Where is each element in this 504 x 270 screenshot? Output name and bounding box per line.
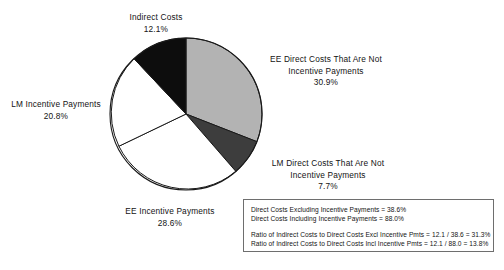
pie-label-lm-direct-costs-value: 7.7% (258, 181, 398, 193)
annotation-line-ratio-incl: Ratio of Indirect Costs to Direct Costs … (251, 239, 487, 248)
pie-label-ee-incentive-payments: EE Incentive Payments 28.6% (108, 206, 232, 229)
pie-chart-figure: Indirect Costs 12.1% EE Direct Costs Tha… (0, 0, 504, 270)
pie-label-ee-direct-costs-text-line2: Incentive Payments (256, 66, 396, 78)
pie-label-lm-direct-costs: LM Direct Costs That Are Not Incentive P… (258, 158, 398, 193)
pie-label-ee-incentive-payments-text: EE Incentive Payments (108, 206, 232, 218)
pie-label-indirect-costs: Indirect Costs 12.1% (104, 12, 208, 35)
annotation-line-direct-costs-excluding: Direct Costs Excluding Incentive Payment… (251, 205, 487, 214)
pie-label-lm-direct-costs-text-line2: Incentive Payments (258, 170, 398, 182)
pie-label-lm-incentive-payments-value: 20.8% (2, 111, 110, 123)
pie-label-ee-incentive-payments-value: 28.6% (108, 218, 232, 230)
annotation-line-ratio-excl: Ratio of Indirect Costs to Direct Costs … (251, 230, 487, 239)
pie-label-indirect-costs-value: 12.1% (104, 24, 208, 36)
pie-label-lm-direct-costs-text-line1: LM Direct Costs That Are Not (258, 158, 398, 170)
annotation-line-direct-costs-including: Direct Costs Including Incentive Payment… (251, 214, 487, 223)
pie-label-ee-direct-costs: EE Direct Costs That Are Not Incentive P… (256, 54, 396, 89)
pie-label-indirect-costs-text: Indirect Costs (104, 12, 208, 24)
pie-label-ee-direct-costs-value: 30.9% (256, 77, 396, 89)
pie-label-ee-direct-costs-text-line1: EE Direct Costs That Are Not (256, 54, 396, 66)
annotation-box: Direct Costs Excluding Incentive Payment… (243, 199, 494, 252)
pie-label-lm-incentive-payments: LM Incentive Payments 20.8% (2, 99, 110, 122)
pie-label-lm-incentive-payments-text: LM Incentive Payments (2, 99, 110, 111)
